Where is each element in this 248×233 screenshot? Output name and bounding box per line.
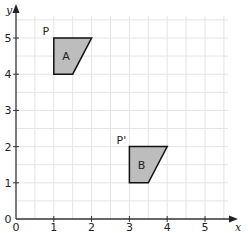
y-tick-label: 4 xyxy=(5,68,12,81)
shape-label: A xyxy=(62,50,70,63)
y-tick-label: 0 xyxy=(5,213,12,226)
y-tick-label: 3 xyxy=(5,104,12,117)
shape-label: B xyxy=(138,159,146,172)
x-axis-label: x xyxy=(235,221,242,233)
x-tick-label: 5 xyxy=(202,221,209,233)
y-axis-label: y xyxy=(5,4,13,17)
x-tick-label: 2 xyxy=(88,221,95,233)
x-tick-label: 4 xyxy=(164,221,171,233)
y-tick-label: 1 xyxy=(5,177,12,190)
grid-lines xyxy=(16,16,228,219)
x-tick-label: 1 xyxy=(50,221,57,233)
vertex-label: P' xyxy=(117,134,127,147)
x-tick-label: 0 xyxy=(13,221,20,233)
y-axis-arrow-icon xyxy=(13,4,20,13)
x-tick-label: 3 xyxy=(126,221,133,233)
y-tick-label: 5 xyxy=(5,32,12,45)
coordinate-grid-diagram: APBP' x y 012345012345 xyxy=(0,0,248,233)
y-tick-label: 2 xyxy=(5,141,12,154)
vertex-label: P xyxy=(42,25,49,38)
